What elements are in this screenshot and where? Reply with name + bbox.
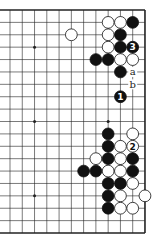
move-number-1: 1 [117, 92, 123, 102]
black-stone [102, 128, 114, 140]
black-stone [115, 178, 127, 190]
white-stone [139, 190, 151, 202]
white-stone [102, 16, 114, 28]
white-stone [115, 54, 127, 66]
black-stone [102, 54, 114, 66]
black-stone [90, 54, 102, 66]
star-point [33, 194, 36, 197]
letter-mark-a: a [130, 66, 136, 77]
black-stone [115, 41, 127, 53]
move-number-3: 3 [130, 42, 136, 52]
black-stone [78, 165, 90, 177]
black-stone [127, 165, 139, 177]
go-board: ab 312 [0, 0, 153, 240]
move-number-2: 2 [130, 142, 136, 152]
white-stone [127, 128, 139, 140]
black-stone [127, 16, 139, 28]
white-stone [102, 41, 114, 53]
black-stone [102, 202, 114, 214]
letter-mark-b: b [129, 79, 135, 90]
black-stone [115, 66, 127, 78]
white-stone [127, 54, 139, 66]
white-stone [90, 153, 102, 165]
star-point [33, 120, 36, 123]
white-stone [115, 140, 127, 152]
white-stone [115, 153, 127, 165]
white-stone [115, 16, 127, 28]
black-stone [102, 153, 114, 165]
white-stone [115, 165, 127, 177]
white-stone [65, 29, 77, 41]
white-stone [115, 190, 127, 202]
white-stone [102, 29, 114, 41]
star-point [33, 46, 36, 49]
black-stone [102, 140, 114, 152]
white-stone [115, 202, 127, 214]
white-stone [127, 178, 139, 190]
black-stone [90, 165, 102, 177]
black-stone [102, 178, 114, 190]
white-stone [102, 165, 114, 177]
letter-marks: ab [128, 66, 137, 89]
black-stone [127, 153, 139, 165]
black-stone [102, 190, 114, 202]
star-point [107, 120, 110, 123]
black-stone [115, 29, 127, 41]
white-stone [127, 202, 139, 214]
